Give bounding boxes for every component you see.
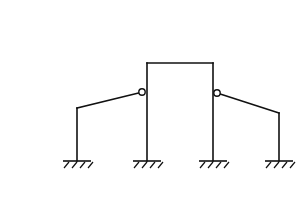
ground-hatch [134,162,139,168]
frame-diagram [0,0,303,213]
frame-diagram-svg [0,0,303,213]
right-hinge-icon [214,90,220,96]
ground-hatch [208,162,213,168]
support-1-fixed-support-icon [63,161,93,168]
support-2-fixed-support-icon [133,161,163,168]
central-portal [147,63,213,161]
left-wing-frame [77,93,139,161]
support-3-fixed-support-icon [199,161,229,168]
ground-hatch [80,162,85,168]
ground-hatch [282,162,287,168]
ground-hatch [72,162,77,168]
left-hinge-icon [139,89,145,95]
right-wing-frame [220,94,279,161]
ground-hatch [224,162,229,168]
ground-hatch [158,162,163,168]
ground-hatch [200,162,205,168]
ground-hatch [216,162,221,168]
support-4-fixed-support-icon [265,161,295,168]
ground-hatch [150,162,155,168]
ground-hatch [64,162,69,168]
ground-hatch [274,162,279,168]
ground-hatch [266,162,271,168]
ground-hatch [88,162,93,168]
fixed-supports [63,161,295,168]
right-wing-inclined-beam [220,94,279,113]
ground-hatch [290,162,295,168]
ground-hatch [142,162,147,168]
left-wing-inclined-beam [77,93,139,108]
